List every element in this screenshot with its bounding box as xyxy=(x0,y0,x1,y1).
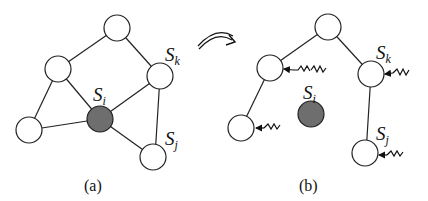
node-si-failed xyxy=(298,101,324,127)
signal-wave-icon xyxy=(284,66,326,72)
caption-b: (b) xyxy=(299,177,318,195)
caption-a: (a) xyxy=(84,177,102,195)
label-sk: Sk xyxy=(376,42,392,66)
label-si: Si xyxy=(303,82,316,106)
node-left-lower xyxy=(228,115,254,141)
node-sk xyxy=(358,61,384,87)
node-sk xyxy=(147,63,173,89)
node-si-failed xyxy=(87,106,113,132)
panel-a: Si Sk Sj (a) xyxy=(16,15,181,195)
label-sk: Sk xyxy=(165,44,181,68)
node-left-upper xyxy=(45,56,71,82)
node-left-upper xyxy=(257,55,283,81)
node-top xyxy=(315,14,341,40)
node-top xyxy=(104,15,130,41)
panel-b: Si Sk Sj (b) xyxy=(228,14,409,195)
label-sj: Sj xyxy=(165,128,179,152)
node-sj xyxy=(140,144,166,170)
signal-wave-icon xyxy=(385,69,409,75)
node-sj xyxy=(352,140,378,166)
signal-wave-icon xyxy=(379,151,403,156)
node-left-lower xyxy=(16,117,42,143)
signal-wave-icon xyxy=(256,124,280,129)
network-diagram: Si Sk Sj (a) xyxy=(0,0,428,201)
label-si: Si xyxy=(93,84,106,108)
label-sj: Sj xyxy=(376,123,390,147)
transition-arrow-icon xyxy=(198,33,235,49)
